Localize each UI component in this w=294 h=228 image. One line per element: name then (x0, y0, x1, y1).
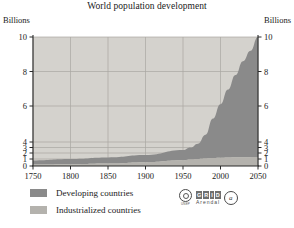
publisher-logo-group: UNEP GRID Arendal a (178, 189, 238, 207)
legend-item-industrialized: Industrialized countries (30, 201, 180, 218)
y-tick-label-left: 10 (19, 32, 28, 42)
unep-ring-icon (179, 189, 192, 202)
x-tick-label: 2050 (250, 171, 267, 181)
grid-letter-blocks: GRID (196, 191, 221, 199)
x-tick-label: 1850 (100, 171, 117, 181)
chart-legend: Developing countries Industrialized coun… (30, 184, 180, 218)
arendal-wordmark: Arendal (196, 199, 220, 206)
x-tick-label: 1800 (62, 171, 79, 181)
y-tick-label-left: 8 (23, 67, 27, 77)
legend-item-developing: Developing countries (30, 184, 180, 201)
y-tick-label-right: 8 (264, 67, 268, 77)
grid-letter-block: R (203, 191, 209, 199)
legend-swatch-industrialized (30, 206, 47, 214)
grid-letter-block: G (196, 191, 202, 199)
y-tick-label-left: 4 (23, 137, 28, 147)
chart-figure: World population development Billions Bi… (0, 0, 294, 228)
x-tick-label: 2000 (212, 171, 229, 181)
legend-label-developing: Developing countries (56, 188, 133, 198)
unep-wordmark: UNEP (181, 202, 190, 206)
y-tick-label-left: 6 (23, 101, 27, 111)
y-tick-label-right: 6 (264, 101, 268, 111)
legend-label-industrialized: Industrialized countries (56, 205, 141, 215)
x-tick-label: 1950 (175, 171, 192, 181)
x-tick-label: 1750 (25, 171, 42, 181)
grid-letter-block: D (215, 191, 221, 199)
y-tick-label-right: 4 (264, 137, 269, 147)
grid-letter-block: I (210, 191, 214, 199)
x-tick-label: 1900 (137, 171, 154, 181)
unep-logo-icon: UNEP (178, 189, 193, 207)
grid-arendal-logo: GRID Arendal (196, 191, 221, 206)
third-party-seal-icon: a (224, 191, 238, 205)
y-tick-label-right: 10 (264, 32, 273, 42)
legend-swatch-developing (30, 189, 47, 197)
